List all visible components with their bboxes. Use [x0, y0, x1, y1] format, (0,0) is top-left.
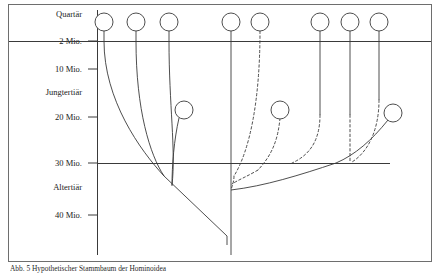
terminal-node[interactable] — [222, 13, 240, 31]
axis-label-alttertiaer: Altertiär — [53, 182, 82, 192]
terminal-node[interactable] — [251, 13, 269, 31]
phylogenetic-chart: Quartär 2 Mio. 10 Mio. Jungtertiär 20 Mi… — [0, 0, 440, 276]
terminal-node[interactable] — [127, 13, 145, 31]
axis-label-30mio: 30 Mio. — [55, 158, 82, 168]
fossil-node[interactable] — [271, 101, 289, 119]
axis-label-20mio: 20 Mio. — [55, 112, 82, 122]
terminal-node[interactable] — [95, 13, 113, 31]
axis-label-quartaer: Quartär — [56, 9, 82, 19]
axis-label-jungtertiaer: Jungtertiär — [46, 87, 83, 97]
fossil-node[interactable] — [384, 104, 402, 122]
terminal-node[interactable] — [160, 13, 178, 31]
fossil-node[interactable] — [175, 101, 193, 119]
terminal-node[interactable] — [370, 13, 388, 31]
terminal-node[interactable] — [341, 13, 359, 31]
terminal-node[interactable] — [311, 13, 329, 31]
figure-caption: Abb. 5 Hypothetischer Stammbaum der Homi… — [10, 264, 430, 273]
axis-label-40mio: 40 Mio. — [55, 210, 82, 220]
figure-root: Quartär 2 Mio. 10 Mio. Jungtertiär 20 Mi… — [0, 0, 440, 276]
axis-label-10mio: 10 Mio. — [55, 64, 82, 74]
